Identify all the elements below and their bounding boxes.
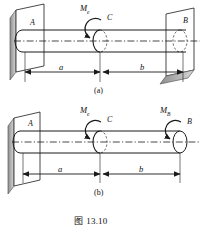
panel-b-dimension-b-label: b xyxy=(139,165,143,174)
panel-a-point-label-a: A xyxy=(30,19,35,27)
panel-b-moment-mb-subscript: B xyxy=(167,111,170,117)
panel-b-sub-caption: (b) xyxy=(94,188,103,197)
figure-caption-prefix: 图 xyxy=(74,216,83,226)
panel-b xyxy=(8,112,200,194)
panel-a-moment-me-subscript: e xyxy=(87,9,89,15)
panel-a-right-wall xyxy=(160,8,194,84)
panel-b-point-label-c: C xyxy=(107,116,112,124)
panel-b-extension-lines xyxy=(23,153,180,183)
figure-13-10: A C B Me a b (a) A C B Me MB a b (b) 图 1… xyxy=(0,0,206,232)
panel-b-moment-me-label: Me xyxy=(80,106,90,117)
panel-b-moment-me-subscript: e xyxy=(87,111,89,117)
panel-a xyxy=(10,4,200,84)
panel-a-moment-me-label: Me xyxy=(80,4,90,15)
figure-caption: 图 13.10 xyxy=(74,214,108,227)
figure-drawing xyxy=(0,0,206,232)
panel-a-point-label-b: B xyxy=(183,17,188,25)
panel-a-point-label-c: C xyxy=(107,14,112,22)
panel-b-point-label-b: B xyxy=(187,118,192,126)
panel-a-dimension-b-label: b xyxy=(140,63,144,72)
panel-b-moment-me-arrow xyxy=(85,120,101,139)
panel-a-moment-me-arrow xyxy=(85,18,101,38)
panel-b-dimension-a-label: a xyxy=(58,165,62,174)
panel-a-sub-caption: (a) xyxy=(94,86,103,95)
panel-b-moment-mb-label: MB xyxy=(160,106,170,117)
panel-a-extension-lines xyxy=(25,52,183,82)
panel-a-dimension-a-label: a xyxy=(59,63,63,72)
figure-caption-number: 13.10 xyxy=(86,216,107,226)
panel-b-point-label-a: A xyxy=(28,120,33,128)
